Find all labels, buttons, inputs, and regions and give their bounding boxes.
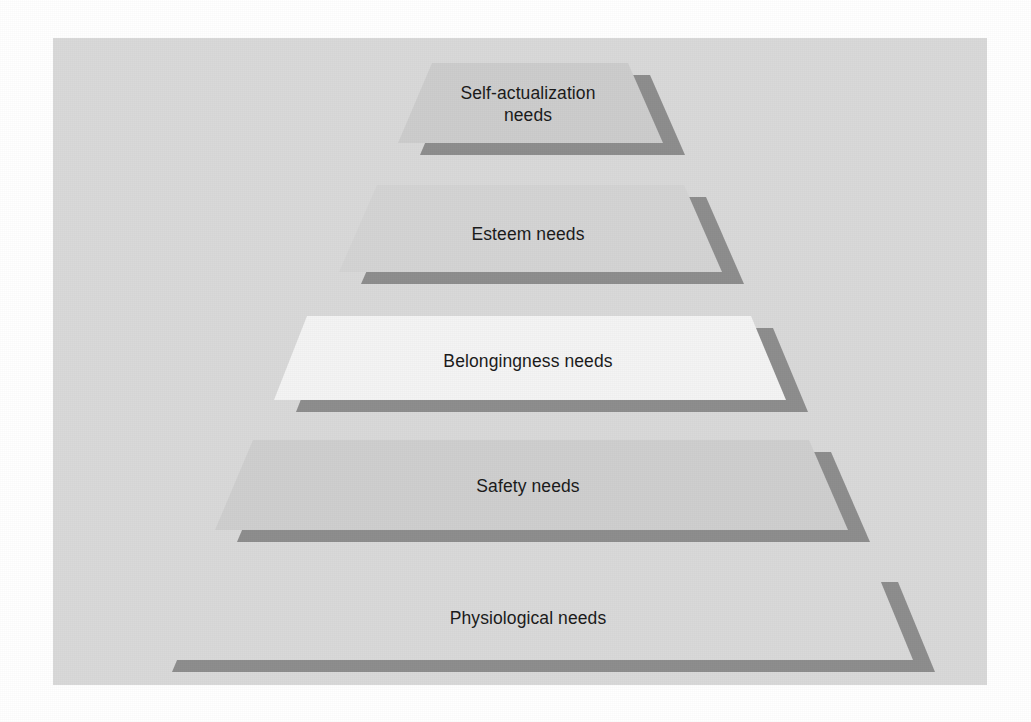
pyramid-level-2[interactable] [339, 185, 722, 272]
pyramid-level-5[interactable] [150, 570, 913, 660]
pyramid-diagram-canvas [0, 0, 1031, 722]
pyramid-level-4[interactable] [215, 440, 848, 530]
figure-root: Self-actualization needsEsteem needsBelo… [0, 0, 1031, 722]
pyramid-level-3[interactable] [274, 316, 786, 400]
pyramid-level-1[interactable] [398, 63, 663, 143]
